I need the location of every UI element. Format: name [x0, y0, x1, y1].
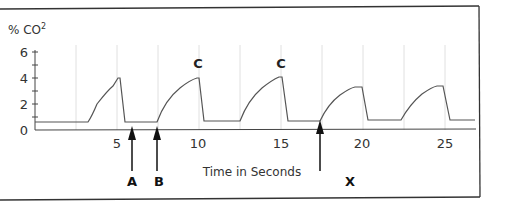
arrow-x: X [316, 120, 355, 189]
peak-label-c: C [276, 56, 286, 71]
y-tick-label: 6 [20, 45, 28, 60]
x-tick-label: 5 [113, 136, 121, 151]
x-tick-label: 20 [354, 136, 371, 151]
peak-label-c: C [193, 56, 203, 71]
x-tick-label: 25 [437, 136, 454, 151]
arrow-b: B [153, 126, 164, 189]
y-tick-label: 0 [20, 123, 28, 138]
y-tick-label: 4 [20, 71, 28, 86]
arrow-a: A [127, 126, 137, 189]
capnogram-chart: 6 4 2 0 % CO2 5 10 15 20 25 Time in Seco… [0, 0, 510, 208]
y-axis-title: % CO2 [8, 22, 46, 37]
frame-bottom [0, 197, 480, 200]
x-tick-label: 10 [190, 136, 207, 151]
x-axis [35, 129, 476, 130]
x-tick-label: 15 [273, 136, 290, 151]
arrow-label-a: A [127, 174, 137, 189]
arrow-head-icon [128, 126, 136, 140]
gridlines [76, 45, 445, 130]
arrow-head-icon [316, 120, 324, 134]
frame-top [0, 6, 479, 9]
co2-waveform [35, 77, 475, 122]
x-axis-title: Time in Seconds [202, 165, 301, 179]
arrow-label-x: X [345, 174, 355, 189]
frame-right [479, 6, 480, 197]
arrow-head-icon [153, 126, 161, 140]
arrow-label-b: B [154, 174, 164, 189]
y-tick-label: 2 [20, 97, 28, 112]
